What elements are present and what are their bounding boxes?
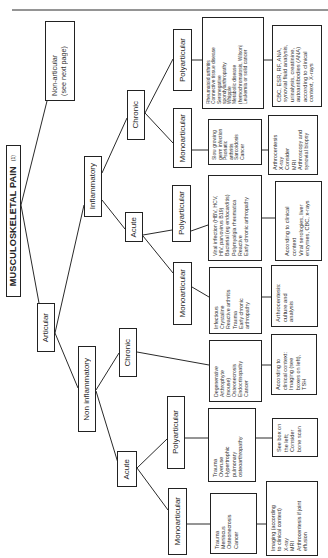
node-label: (see next page): [59, 26, 68, 96]
node-infl-chronic-polyarticular: Polyarticular: [173, 29, 192, 91]
workup-noninfl-acute-poly: See box on the left; Consider bone scan: [272, 418, 318, 457]
list-item: the left;: [283, 423, 290, 452]
edge-noninfl-acute: [96, 391, 118, 463]
edge-iam-causes: [192, 287, 209, 297]
node-label: Polyarticular: [179, 38, 187, 82]
edge-iap-causes: [191, 225, 208, 231]
node-label: Polyarticular: [172, 410, 180, 454]
edge-articular-inflammatory: [55, 205, 84, 333]
causes-noninfl-acute-poly: Trauma Overuse Hypertrophic pulmonary os…: [208, 408, 256, 482]
node-label: Monoarticular: [174, 497, 182, 545]
list-item: analysis: [288, 270, 295, 322]
causes-noninfl-acute-mono: Trauma Meniscus Osteonecrosis Cancer: [210, 493, 257, 554]
node-noninfl-acute-monoarticular: Monoarticular: [168, 488, 187, 555]
list-item: osteoarthropathy: [237, 413, 243, 477]
edge-infl-acute-mono: [143, 236, 173, 273]
list-item: Cancer: [240, 124, 246, 160]
list-item: enzymes, CBC, x-rays: [304, 186, 311, 256]
node-non-inflammatory-acute: Acute: [117, 451, 137, 487]
list-item: Arthrocentesis:: [275, 270, 282, 322]
list-item: Cancer: [243, 345, 249, 397]
list-item: synovial biopsy: [303, 120, 309, 170]
list-item: context, X-rays: [308, 30, 314, 102]
causes-infl-acute-mono: Infectious Crystaline Reactive arthritis…: [209, 267, 262, 334]
node-label: Polyarticular: [178, 191, 186, 235]
node-label: Chronic: [124, 339, 132, 367]
node-inflammatory-acute: Acute: [125, 212, 143, 242]
node-inflammatory: Inflammatory: [84, 156, 102, 217]
causes-noninfl-chronic: Degenerative Arthrophyte (mouse) Osteone…: [209, 340, 262, 402]
edge-articular-non-inflammatory: [55, 333, 78, 388]
edge-noninfl-acute-mono: [137, 468, 168, 510]
list-item: Leukemia or solid cancer: [243, 22, 248, 104]
list-item: See box on: [276, 423, 283, 452]
edge-infl-chronic-mono: [145, 113, 173, 143]
edge-root-articular: [21, 205, 39, 303]
node-infl-acute-monoarticular: Monoarticular: [173, 262, 192, 325]
list-item: context: [291, 186, 298, 256]
node-non-inflammatory: Non inflammatory: [78, 346, 96, 432]
list-item: Cancer: [233, 498, 239, 549]
edge-noninfl-acute-poly: [137, 439, 167, 468]
node-label: Non-articular: [50, 26, 59, 96]
causes-infl-chronic-mono: Slow growing germ infection Psoriatic ar…: [208, 119, 262, 165]
list-item: Consider: [289, 423, 296, 452]
list-item: bone scan: [296, 423, 303, 452]
page-title: MUSCULOSKELETAL PAIN (1): [9, 155, 18, 286]
causes-infl-chronic-poly: Rheumatoid arthritis Connective tissue d…: [202, 17, 264, 109]
workup-infl-acute-mono: Arthrocentesis: culture and analysis: [271, 265, 318, 327]
causes-infl-acute-poly: Viral infection (HBV, HCV, HIV, parvovir…: [208, 175, 262, 261]
node-label: Monoarticular: [179, 269, 187, 317]
list-item: effusion: [302, 486, 308, 551]
title-box: MUSCULOSKELETAL PAIN (1): [6, 145, 21, 297]
node-label: Chronic: [132, 101, 140, 129]
node-inflammatory-chronic: Chronic: [127, 90, 145, 140]
list-item: According to clinical: [284, 186, 291, 256]
edge-infl-chronic-poly: [145, 59, 173, 113]
edge-infl-acute-poly: [143, 230, 172, 235]
node-infl-acute-polyarticular: Polyarticular: [172, 185, 191, 242]
title-main: MUSCULOSKELETAL PAIN: [8, 167, 18, 287]
node-label: Non inflammatory: [83, 358, 91, 421]
workup-infl-chronic-mono: Arthrocentesis X-ray Consider MRI Arthro…: [268, 115, 318, 175]
list-item: arthropathy: [244, 272, 250, 329]
node-label: Inflammatory: [89, 163, 97, 209]
edge-noninfl-chronic: [96, 353, 119, 390]
edge-inflammatory-chronic: [102, 118, 127, 173]
title-page-ref: (1): [10, 155, 16, 161]
node-non-articular: Non-articular (see next page): [45, 21, 75, 101]
workup-infl-acute-poly: According to clinical context Viral sero…: [275, 181, 322, 261]
node-infl-chronic-monoarticular: Monoarticular: [173, 108, 192, 168]
node-label: Acute: [130, 217, 138, 237]
list-item: Early chronic arthropathy: [243, 180, 249, 256]
edge-inflammatory-acute: [102, 200, 125, 229]
node-label: Acute: [123, 459, 131, 479]
node-articular: Articular: [37, 303, 55, 352]
workup-noninfl-chronic: According to clinical context: Imaging (…: [271, 334, 317, 395]
list-item: culture and: [282, 270, 289, 322]
list-item: Viral serologies, liver: [298, 186, 305, 256]
node-noninfl-acute-polyarticular: Polyarticular: [167, 396, 185, 469]
edge-root-non-articular: [21, 101, 47, 205]
flowchart-page: MUSCULOSKELETAL PAIN (1) Non-articular (…: [0, 0, 328, 558]
node-label: Monoarticular: [179, 114, 187, 162]
workup-infl-chronic-poly: CBC, ESR, RF, ANA, synovial fluid analys…: [272, 25, 322, 107]
edge-noninfl-chronic-causes: [137, 352, 209, 365]
node-non-inflammatory-chronic: Chronic: [119, 328, 137, 377]
node-label: Articular: [42, 313, 50, 342]
workup-noninfl-acute-mono: Imaging (according to clinical context) …: [266, 481, 318, 556]
list-item: TSH: [301, 339, 308, 390]
